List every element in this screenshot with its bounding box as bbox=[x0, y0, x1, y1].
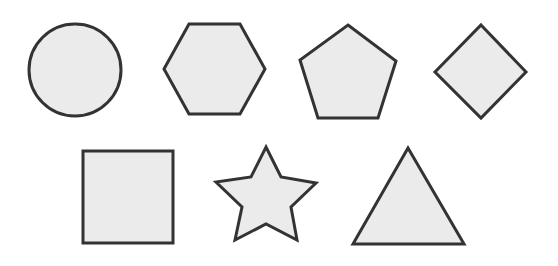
shapes-diagram bbox=[0, 0, 558, 266]
square-shape bbox=[83, 151, 173, 243]
hexagon-shape bbox=[164, 24, 265, 114]
diamond-shape bbox=[435, 25, 526, 118]
triangle-shape bbox=[353, 148, 464, 244]
circle-shape bbox=[29, 24, 121, 116]
star-shape bbox=[216, 147, 316, 240]
pentagon-shape bbox=[300, 25, 396, 118]
